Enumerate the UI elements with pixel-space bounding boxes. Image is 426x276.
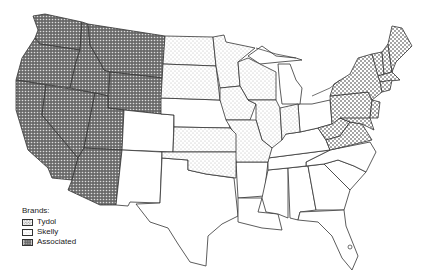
legend-title: Brands: [22,206,76,216]
state-north-dakota [163,36,216,66]
associated-swatch-icon [22,239,33,246]
map-legend: Brands: Tydol Skelly Associated [22,206,76,247]
region-tydol [318,26,412,150]
state-michigan-up [248,46,302,64]
state-south-dakota [161,64,220,100]
state-colorado [122,110,174,152]
state-wyoming [108,72,163,114]
state-maine [388,26,412,72]
legend-item-skelly: Skelly [22,227,76,237]
state-connecticut [380,80,392,92]
state-michigan [278,64,302,104]
skelly-swatch-icon [22,229,33,236]
legend-label-skelly: Skelly [37,227,58,237]
legend-item-associated: Associated [22,237,76,247]
tydol-swatch-icon [22,219,33,226]
state-florida [298,210,358,270]
legend-label-tydol: Tydol [37,217,56,227]
state-new-mexico [116,150,162,206]
legend-label-associated: Associated [37,237,76,247]
state-new-jersey [370,100,380,118]
legend-item-tydol: Tydol [22,217,76,227]
state-kansas [173,127,236,152]
